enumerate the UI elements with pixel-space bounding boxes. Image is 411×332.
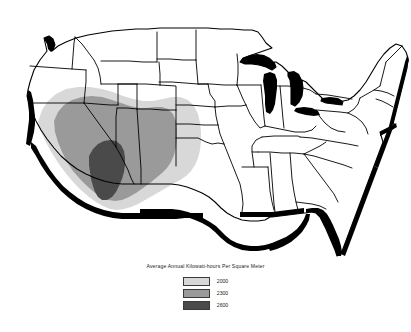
legend-label-2300: 2300 <box>217 289 228 298</box>
southeast-atlantic-shading <box>341 166 378 256</box>
border-mn-ia <box>198 84 237 85</box>
solar-resource-figure: Average Annual Kilowatt-hours Per Square… <box>0 0 411 332</box>
border-id-mt <box>75 37 101 84</box>
border-il-mo-ky <box>246 105 265 128</box>
border-ok-ar-mo <box>218 125 224 144</box>
border-tn-ar-mo <box>252 137 262 152</box>
border-ga-fl <box>296 202 326 209</box>
legend-entries: 2000 2300 2600 <box>183 276 228 312</box>
border-pa-nj <box>348 98 360 113</box>
border-ia-mo <box>215 105 246 107</box>
border-wv-va <box>316 110 345 132</box>
border-va-nc <box>300 137 358 146</box>
legend-item-2300: 2300 <box>183 288 228 299</box>
legend-swatch-2300 <box>183 289 210 298</box>
map-legend: Average Annual Kilowatt-hours Per Square… <box>0 262 411 314</box>
border-pa-wv-md <box>316 110 348 113</box>
border-wy-mt <box>101 61 157 62</box>
border-md-de <box>348 113 368 134</box>
border-tn-nc <box>304 142 326 154</box>
border-wy-co <box>118 84 160 85</box>
us-map <box>0 4 411 260</box>
florida-coast-shading <box>306 208 342 256</box>
border-wa-id <box>72 37 75 69</box>
border-nh-me <box>386 46 402 62</box>
lake-michigan-shading <box>263 72 277 114</box>
border-ky-oh-wv <box>265 126 316 132</box>
legend-label-2600: 2600 <box>217 301 228 310</box>
border-sd-mn-ia <box>196 60 198 84</box>
border-ks-mo <box>215 107 218 125</box>
legend-swatch-2600 <box>183 301 210 310</box>
border-tn-ms-al-ga <box>258 152 304 154</box>
border-ct-ny <box>376 99 393 107</box>
border-nd-sd <box>157 59 196 60</box>
gulf-coast-shading <box>268 214 310 251</box>
border-ny-vt-ma <box>360 86 380 98</box>
border-sc-nc <box>304 154 352 168</box>
legend-title: Average Annual Kilowatt-hours Per Square… <box>0 262 411 270</box>
border-mn-wi <box>237 54 238 85</box>
legend-item-2600: 2600 <box>183 300 228 311</box>
border-ne-ia-mo <box>208 84 215 107</box>
border-al-ga <box>290 153 298 210</box>
border-ky-tn <box>262 136 300 137</box>
legend-label-2000: 2000 <box>217 277 228 286</box>
border-wa-or <box>30 66 86 70</box>
northern-gulf-shading <box>240 208 304 217</box>
border-ar-ms <box>252 152 254 167</box>
border-vt-nh <box>380 62 386 86</box>
border-ma-ct-ri <box>374 90 394 96</box>
lake-huron-shading <box>288 71 303 106</box>
lake-erie-shading <box>294 107 320 116</box>
legend-item-2000: 2000 <box>183 276 228 287</box>
border-tx-la <box>224 144 243 212</box>
legend-swatch-2000 <box>183 277 210 286</box>
border-ia-il <box>237 85 246 105</box>
border-in-oh <box>280 86 284 128</box>
lake-superior-shading <box>240 54 276 70</box>
border-ga-sc <box>304 154 338 202</box>
new-england-coast-shading <box>389 56 409 130</box>
